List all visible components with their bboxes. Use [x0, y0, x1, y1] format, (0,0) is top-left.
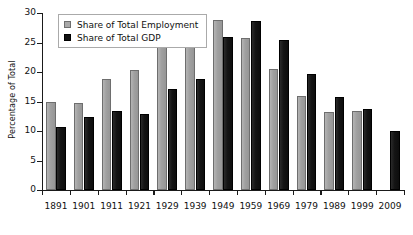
bar-gdp — [279, 40, 289, 190]
x-tick — [237, 190, 238, 195]
bar-gdp — [84, 117, 94, 190]
x-tick-label: 1949 — [212, 201, 235, 211]
x-tick-label: 1959 — [239, 201, 262, 211]
x-tick — [376, 190, 377, 195]
bar-gdp — [56, 127, 66, 190]
x-tick-label: 1939 — [184, 201, 207, 211]
x-tick-label: 1989 — [323, 201, 346, 211]
x-tick-label: 1929 — [156, 201, 179, 211]
x-tick-label: 1979 — [295, 201, 318, 211]
y-tick — [37, 161, 42, 162]
bar-employment — [46, 102, 56, 191]
x-tick-label: 2009 — [379, 201, 402, 211]
bar-gdp — [196, 79, 206, 191]
bar-gdp — [251, 21, 261, 190]
bar-gdp — [363, 109, 373, 190]
bar-employment — [130, 70, 140, 190]
y-tick-label: 25 — [12, 37, 36, 47]
bar-chart: Percentage of Total 051015202530 1891190… — [0, 0, 413, 235]
y-tick-label: 10 — [12, 125, 36, 135]
x-tick — [42, 190, 43, 195]
x-tick — [209, 190, 210, 195]
y-tick-label: 30 — [12, 7, 36, 17]
y-tick-label: 15 — [12, 96, 36, 106]
bar-employment — [74, 103, 84, 190]
y-tick — [37, 72, 42, 73]
legend-label-employment: Share of Total Employment — [77, 20, 198, 30]
bar-gdp — [168, 89, 178, 190]
x-tick — [265, 190, 266, 195]
x-tick — [348, 190, 349, 195]
bar-gdp — [307, 74, 317, 190]
legend-swatch-gdp-icon — [64, 34, 71, 41]
legend-label-gdp: Share of Total GDP — [77, 33, 161, 43]
y-tick — [37, 131, 42, 132]
legend-item-gdp: Share of Total GDP — [64, 31, 198, 44]
y-axis-line — [42, 13, 43, 190]
x-tick — [126, 190, 127, 195]
y-tick-label: 0 — [12, 184, 36, 194]
x-tick-label: 1921 — [128, 201, 151, 211]
bar-gdp — [390, 131, 400, 190]
x-tick-label: 1911 — [100, 201, 123, 211]
y-tick — [37, 43, 42, 44]
x-tick — [153, 190, 154, 195]
bar-gdp — [112, 111, 122, 190]
y-tick — [37, 13, 42, 14]
x-axis-line — [42, 190, 404, 191]
y-tick-label: 5 — [12, 155, 36, 165]
bar-employment — [241, 38, 251, 190]
bar-employment — [352, 111, 362, 190]
bar-employment — [269, 69, 279, 190]
bar-employment — [102, 79, 112, 190]
chart-legend: Share of Total Employment Share of Total… — [58, 14, 207, 48]
x-tick-label: 1969 — [267, 201, 290, 211]
y-tick — [37, 102, 42, 103]
x-tick — [404, 190, 405, 195]
x-tick-label: 1901 — [72, 201, 95, 211]
legend-item-employment: Share of Total Employment — [64, 18, 198, 31]
x-tick-label: 1999 — [351, 201, 374, 211]
bar-employment — [157, 47, 167, 190]
x-tick-label: 1891 — [44, 201, 67, 211]
bar-gdp — [140, 114, 150, 190]
bar-gdp — [223, 37, 233, 190]
bar-employment — [324, 112, 334, 190]
x-tick — [181, 190, 182, 195]
bar-employment — [297, 96, 307, 190]
x-tick — [320, 190, 321, 195]
legend-swatch-employment-icon — [64, 21, 71, 28]
bar-employment — [213, 20, 223, 190]
x-tick — [98, 190, 99, 195]
x-tick — [293, 190, 294, 195]
y-tick-label: 20 — [12, 66, 36, 76]
bar-gdp — [335, 97, 345, 190]
x-tick — [70, 190, 71, 195]
